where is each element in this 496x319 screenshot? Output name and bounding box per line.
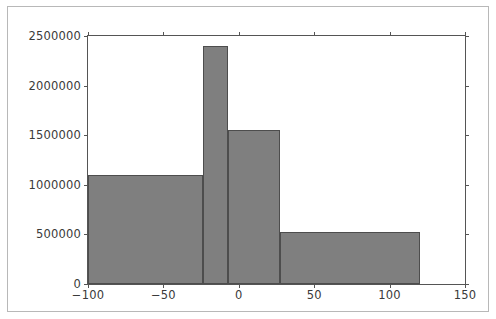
y-axis-tick: [84, 234, 88, 235]
y-axis-tick: [84, 135, 88, 136]
y-axis-tick-label: 500000: [36, 227, 81, 241]
figure-frame: 05000001000000150000020000002500000 −100…: [7, 6, 489, 312]
y-axis-tick-label: 2500000: [28, 29, 81, 43]
x-axis-tick-label: −100: [72, 288, 104, 302]
chart-axes: 05000001000000150000020000002500000 −100…: [87, 35, 466, 285]
x-axis-tick-mirror: [314, 32, 315, 36]
histogram-bar: [203, 46, 229, 284]
histogram-bar: [228, 130, 279, 284]
x-axis-tick-label: 100: [378, 288, 401, 302]
x-axis-tick-mirror: [390, 32, 391, 36]
x-axis-tick-mirror: [88, 32, 89, 36]
y-axis-tick-mirror: [465, 185, 469, 186]
y-axis-tick-label: 1500000: [28, 128, 81, 142]
y-axis-tick-label: 1000000: [28, 178, 81, 192]
y-axis-tick: [84, 36, 88, 37]
x-axis-tick-label: 50: [307, 288, 322, 302]
x-axis-tick-mirror: [163, 32, 164, 36]
histogram-bar: [280, 232, 420, 284]
x-axis-tick-label: −50: [151, 288, 176, 302]
y-axis-tick-mirror: [465, 135, 469, 136]
x-axis-tick-mirror: [465, 32, 466, 36]
y-axis-tick-mirror: [465, 86, 469, 87]
y-axis-tick-mirror: [465, 36, 469, 37]
x-axis-tick-label: 0: [235, 288, 243, 302]
y-axis-tick: [84, 185, 88, 186]
histogram-bar: [88, 175, 203, 284]
plot-area: [88, 36, 465, 284]
x-axis-tick-mirror: [239, 32, 240, 36]
y-axis-tick: [84, 86, 88, 87]
x-axis-tick-label: 150: [454, 288, 477, 302]
y-axis-tick-label: 2000000: [28, 79, 81, 93]
y-axis-tick-mirror: [465, 234, 469, 235]
figure-canvas: 05000001000000150000020000002500000 −100…: [0, 0, 496, 319]
